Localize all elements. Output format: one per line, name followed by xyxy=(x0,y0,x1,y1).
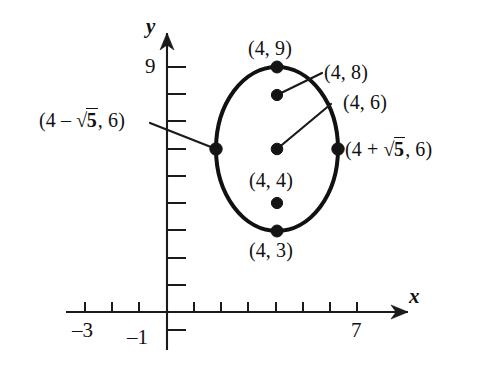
point-label-4-4: (4, 4) xyxy=(249,170,293,190)
left-covertex-radical: √5 xyxy=(76,110,98,130)
left-covertex-radicand: 5 xyxy=(86,108,98,131)
radical-sign-icon: √ xyxy=(383,138,394,160)
point-label-right-covertex: (4 + √5, 6) xyxy=(345,139,432,159)
left-covertex-prefix: (4 – xyxy=(39,109,76,131)
y-axis-group xyxy=(160,33,186,350)
point-marker-4-6 xyxy=(271,143,283,155)
point-marker-4-4 xyxy=(271,197,282,208)
x-tick-label-minus3: –3 xyxy=(72,320,93,341)
left-covertex-suffix: , 6) xyxy=(98,109,125,131)
point-label-4-6: (4, 6) xyxy=(343,92,387,112)
point-marker-left-covertex xyxy=(210,143,222,155)
right-covertex-radical: √5 xyxy=(383,139,405,159)
y-tick-label-9: 9 xyxy=(145,56,156,77)
leader-line-left-covertex xyxy=(150,123,216,149)
point-marker-right-covertex xyxy=(332,143,344,155)
x-tick-label-7: 7 xyxy=(351,320,362,341)
y-axis-label: y xyxy=(146,16,155,37)
point-marker-4-9 xyxy=(271,61,283,73)
leader-line-point-4-6 xyxy=(277,104,331,149)
x-tick-label-minus1: –1 xyxy=(127,327,148,348)
x-axis-label: x xyxy=(409,286,420,307)
point-label-4-3: (4, 3) xyxy=(249,240,293,260)
point-marker-4-3 xyxy=(271,225,283,237)
right-covertex-suffix: , 6) xyxy=(405,138,432,160)
point-label-4-8: (4, 8) xyxy=(324,62,368,82)
point-label-left-covertex: (4 – √5, 6) xyxy=(39,110,125,130)
x-axis-group xyxy=(66,302,408,319)
point-label-4-9: (4, 9) xyxy=(248,38,292,58)
ellipse-diagram-figure: y x 9 –3 –1 7 (4, 9) (4, 8) (4, 6) (4, 4… xyxy=(0,0,481,381)
right-covertex-prefix: (4 + xyxy=(345,138,383,160)
point-marker-4-8 xyxy=(271,89,282,100)
right-covertex-radicand: 5 xyxy=(394,137,406,160)
